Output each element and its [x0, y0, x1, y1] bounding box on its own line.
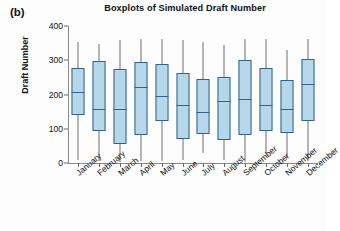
median-line: [259, 105, 272, 106]
median-line: [134, 87, 147, 88]
boxplot-box: [155, 20, 168, 163]
boxplot-box: [72, 20, 85, 163]
box-iqr-rect: [155, 64, 168, 121]
y-tick-label: 200: [49, 90, 63, 100]
boxplot-box: [259, 20, 272, 163]
median-line: [280, 109, 293, 110]
boxplot-box: [218, 20, 231, 163]
box-iqr-rect: [218, 77, 231, 140]
y-tick-label: 400: [49, 21, 63, 31]
y-tick-label: 0: [58, 158, 63, 168]
boxplot-box: [197, 20, 210, 163]
box-iqr-rect: [239, 60, 252, 135]
median-line: [114, 109, 127, 110]
box-iqr-rect: [72, 68, 85, 115]
plot-area: 0100200300400 JanuaryFebruaryMarchAprilM…: [68, 20, 318, 170]
box-iqr-rect: [93, 61, 106, 131]
box-iqr-rect: [134, 62, 147, 135]
boxplot-box: [239, 20, 252, 163]
median-line: [218, 101, 231, 102]
box-iqr-rect: [301, 59, 314, 121]
y-axis-label: Draft Number: [20, 10, 30, 120]
y-tick-mark: [64, 163, 68, 164]
boxplot-box: [176, 20, 189, 163]
boxplot-box: [280, 20, 293, 163]
boxplot-box: [301, 20, 314, 163]
median-line: [72, 92, 85, 93]
y-tick-label: 300: [49, 55, 63, 65]
box-iqr-rect: [259, 68, 272, 131]
y-tick-mark: [64, 26, 68, 27]
y-axis-line: [68, 26, 69, 163]
box-iqr-rect: [197, 79, 210, 134]
median-line: [301, 84, 314, 85]
median-line: [239, 99, 252, 100]
y-tick-mark: [64, 60, 68, 61]
y-tick-mark: [64, 94, 68, 95]
boxplot-box: [134, 20, 147, 163]
median-line: [93, 109, 106, 110]
box-iqr-rect: [114, 69, 127, 144]
boxplot-box: [93, 20, 106, 163]
chart-title: Boxplots of Simulated Draft Number: [85, 3, 285, 13]
median-line: [176, 105, 189, 106]
median-line: [155, 96, 168, 97]
boxplot-box: [114, 20, 127, 163]
box-iqr-rect: [280, 80, 293, 133]
median-line: [197, 112, 210, 113]
y-tick-mark: [64, 128, 68, 129]
y-tick-label: 100: [49, 124, 63, 134]
